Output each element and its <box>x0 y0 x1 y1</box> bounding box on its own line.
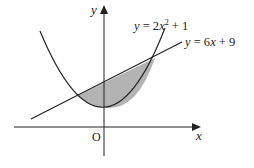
y-axis-arrow-icon <box>100 5 108 14</box>
parabola-equation-label: y = 2x2 + 1 <box>132 18 188 33</box>
y-axis-label: y <box>89 2 97 17</box>
origin-label: O <box>92 130 101 144</box>
x-axis-label: x <box>195 128 202 143</box>
shaded-region <box>77 58 155 108</box>
line-equation-label: y = 6x + 9 <box>183 35 235 49</box>
area-between-curves-diagram: y x O y = 2x2 + 1 y = 6x + 9 <box>0 0 254 168</box>
